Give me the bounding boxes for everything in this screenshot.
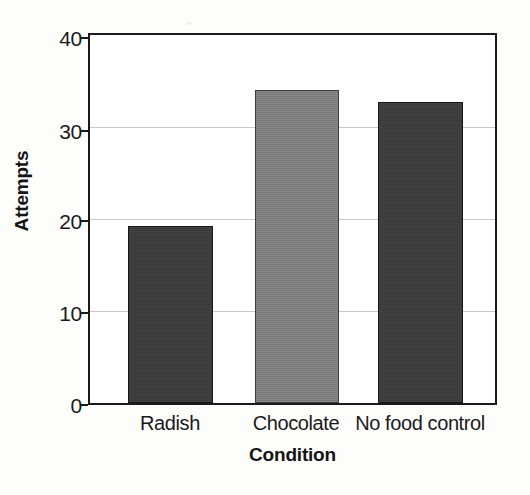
y-tick-label-40: 40 [42, 28, 82, 49]
x-axis-title: Condition [88, 444, 497, 466]
y-tick-mark-20 [80, 220, 88, 222]
y-tick-label-0: 0 [42, 395, 82, 416]
y-tick-label-30: 30 [42, 121, 82, 142]
y-axis-tick-labels: 40 30 20 10 0 [36, 0, 82, 495]
bar-chart-figure: 40 30 20 10 0 Attempts Radish Chocolate … [0, 0, 530, 495]
y-tick-label-10: 10 [42, 303, 82, 324]
scan-speckle [186, 22, 192, 25]
y-tick-mark-30 [80, 130, 88, 132]
y-tick-label-20: 20 [42, 211, 82, 232]
bar-no-food-control [378, 102, 463, 403]
x-tick-label-no-food-control: No food control [330, 412, 510, 435]
plot-area [88, 33, 497, 405]
y-tick-mark-10 [80, 312, 88, 314]
y-tick-mark-0 [80, 404, 88, 406]
bar-chocolate [255, 90, 339, 403]
bar-radish [128, 226, 213, 403]
y-axis-title: Attempts [11, 131, 33, 251]
y-tick-mark-40 [80, 37, 88, 39]
